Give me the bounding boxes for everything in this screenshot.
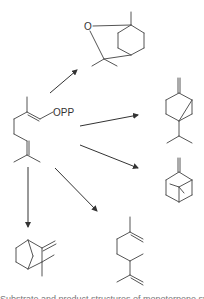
figure-caption: Substrate and product structures of mono… — [0, 292, 204, 299]
product-sabinene — [166, 78, 192, 143]
oxygen-label: O — [84, 21, 92, 32]
product-myrcene — [117, 217, 143, 285]
arrow-to-pinene — [80, 145, 138, 168]
product-pinene — [166, 158, 192, 202]
arrow-to-sabinene — [80, 115, 138, 126]
product-camphene — [16, 240, 56, 276]
product-cineole: O — [84, 12, 144, 66]
opp-label: OPP — [53, 107, 74, 118]
substrate-gpp: OPP — [14, 97, 74, 162]
arrow-to-myrcene — [55, 168, 97, 211]
reaction-diagram: OPP O — [0, 0, 204, 299]
arrow-to-cineole — [50, 70, 77, 93]
